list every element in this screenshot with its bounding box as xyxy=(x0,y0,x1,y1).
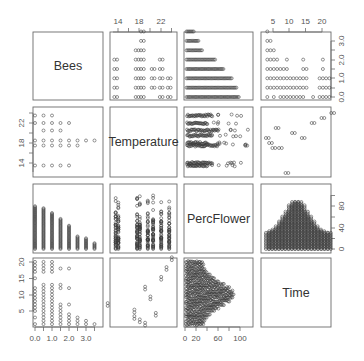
svg-text:22: 22 xyxy=(17,118,26,127)
diag-label-temperature: Temperature xyxy=(108,135,178,149)
svg-text:10: 10 xyxy=(17,290,26,299)
svg-text:0: 0 xyxy=(337,246,346,251)
svg-text:1.0: 1.0 xyxy=(337,72,346,84)
svg-text:14: 14 xyxy=(114,17,123,26)
axis-top-temperature: 14 18 22 xyxy=(113,17,172,32)
svg-text:20: 20 xyxy=(192,334,201,343)
svg-text:10: 10 xyxy=(285,17,294,26)
svg-text:18: 18 xyxy=(135,17,144,26)
svg-text:0.0: 0.0 xyxy=(29,334,41,343)
panel-frames xyxy=(33,32,331,327)
axis-right-bees: 0.0 1.0 2.0 3.0 xyxy=(331,35,346,103)
svg-text:15: 15 xyxy=(17,274,26,283)
diag-label-percflower: PercFlower xyxy=(187,212,250,226)
svg-text:60: 60 xyxy=(214,334,223,343)
svg-text:20: 20 xyxy=(318,17,327,26)
axis-right-percflower: 0 40 80 xyxy=(331,195,346,251)
axis-bottom-bees: 0.0 1.0 2.0 3.0 xyxy=(29,327,95,343)
pairs-plot: Bees Temperature PercFlower Time 14 18 2… xyxy=(0,0,364,361)
diag-label-time: Time xyxy=(282,286,309,300)
panel-temperature-time xyxy=(261,107,331,177)
svg-text:5: 5 xyxy=(271,17,276,26)
svg-text:14: 14 xyxy=(17,158,26,167)
svg-text:2.0: 2.0 xyxy=(337,54,346,66)
svg-text:18: 18 xyxy=(17,138,26,147)
svg-text:3.0: 3.0 xyxy=(80,334,92,343)
svg-text:15: 15 xyxy=(301,17,310,26)
svg-text:2.0: 2.0 xyxy=(63,334,75,343)
svg-text:40: 40 xyxy=(337,223,346,232)
svg-text:3.0: 3.0 xyxy=(337,35,346,47)
svg-text:20: 20 xyxy=(17,257,26,266)
axis-bottom-percflower: 0 20 60 100 xyxy=(183,327,247,343)
axis-top-time: 5 10 15 20 xyxy=(271,17,327,32)
svg-text:1.0: 1.0 xyxy=(46,334,58,343)
scatter-points xyxy=(34,30,336,327)
axis-left-temperature: 14 18 22 xyxy=(17,113,33,172)
svg-text:22: 22 xyxy=(157,17,166,26)
svg-text:0: 0 xyxy=(183,334,188,343)
svg-text:100: 100 xyxy=(233,334,247,343)
svg-text:80: 80 xyxy=(337,201,346,210)
axis-left-time: 5 10 15 20 xyxy=(17,257,33,313)
svg-text:5: 5 xyxy=(17,308,26,313)
diag-label-bees: Bees xyxy=(54,59,83,73)
svg-text:0.0: 0.0 xyxy=(337,91,346,103)
